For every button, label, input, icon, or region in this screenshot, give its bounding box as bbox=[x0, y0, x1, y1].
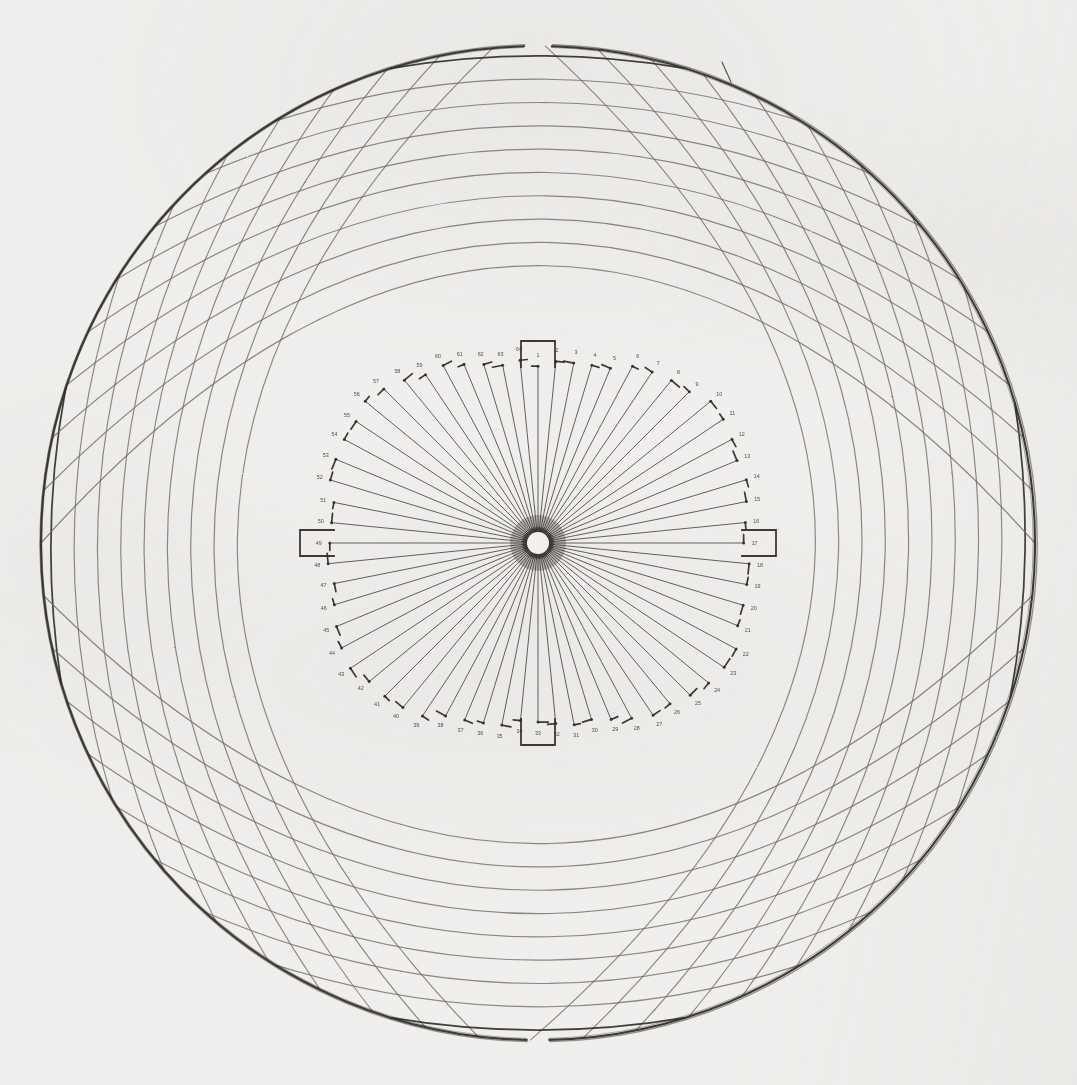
scanned-plate-figure: 1234567891011121314151617181920212223242… bbox=[0, 0, 1077, 1085]
paper-grain-overlay bbox=[0, 0, 1077, 1085]
projection-plate-svg: 1234567891011121314151617181920212223242… bbox=[0, 0, 1077, 1085]
